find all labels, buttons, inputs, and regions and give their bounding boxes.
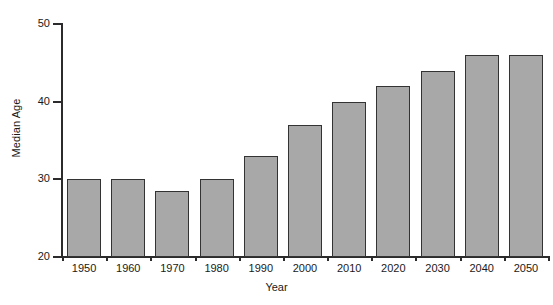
x-tick-mark — [239, 256, 241, 261]
bar-1970 — [155, 191, 189, 257]
bar-2020 — [376, 86, 410, 257]
bar-2030 — [421, 71, 455, 257]
x-tick-mark — [283, 256, 285, 261]
x-tick-label: 1990 — [239, 263, 283, 274]
y-tick-mark — [53, 23, 62, 25]
bar-1950 — [67, 179, 101, 257]
x-tick-label: 2050 — [504, 263, 548, 274]
x-tick-label: 2030 — [415, 263, 459, 274]
y-tick-label: 40 — [18, 96, 50, 107]
x-tick-mark — [415, 256, 417, 261]
bar-rect — [244, 156, 278, 257]
x-axis-title: Year — [0, 281, 553, 293]
bar-2040 — [465, 55, 499, 257]
bar-1980 — [200, 179, 234, 257]
y-tick-label: 20 — [18, 251, 50, 262]
x-tick-mark — [62, 256, 64, 261]
x-tick-label: 1980 — [195, 263, 239, 274]
bar-rect — [376, 86, 410, 257]
bar-rect — [67, 179, 101, 257]
y-axis-title-text: Median Age — [10, 98, 22, 157]
x-tick-label: 2020 — [371, 263, 415, 274]
bar-rect — [155, 191, 189, 257]
x-tick-mark — [504, 256, 506, 261]
bar-rect — [421, 71, 455, 257]
bar-rect — [111, 179, 145, 257]
bar-2050 — [509, 55, 543, 257]
x-tick-label: 2010 — [327, 263, 371, 274]
x-tick-label: 2000 — [283, 263, 327, 274]
bar-rect — [465, 55, 499, 257]
x-tick-label: 1970 — [150, 263, 194, 274]
bar-chart: Median Age 20304050 19501960197019801990… — [0, 0, 553, 305]
x-tick-label: 1960 — [106, 263, 150, 274]
bar-2000 — [288, 125, 322, 257]
y-tick-mark — [53, 101, 62, 103]
x-tick-mark — [327, 256, 329, 261]
x-tick-mark — [150, 256, 152, 261]
bar-rect — [200, 179, 234, 257]
y-axis-title: Median Age — [4, 0, 28, 255]
y-tick-mark — [53, 178, 62, 180]
y-tick-mark — [53, 256, 62, 258]
x-tick-mark — [460, 256, 462, 261]
y-tick-label: 30 — [18, 173, 50, 184]
y-axis-line — [61, 23, 63, 258]
bar-2010 — [332, 102, 366, 257]
bar-rect — [509, 55, 543, 257]
y-tick-label: 50 — [18, 18, 50, 29]
bar-1960 — [111, 179, 145, 257]
bar-1990 — [244, 156, 278, 257]
x-tick-mark — [195, 256, 197, 261]
x-tick-label: 1950 — [62, 263, 106, 274]
x-tick-mark — [106, 256, 108, 261]
x-tick-mark — [548, 256, 550, 261]
bar-rect — [332, 102, 366, 257]
x-tick-mark — [371, 256, 373, 261]
bar-rect — [288, 125, 322, 257]
x-tick-label: 2040 — [460, 263, 504, 274]
